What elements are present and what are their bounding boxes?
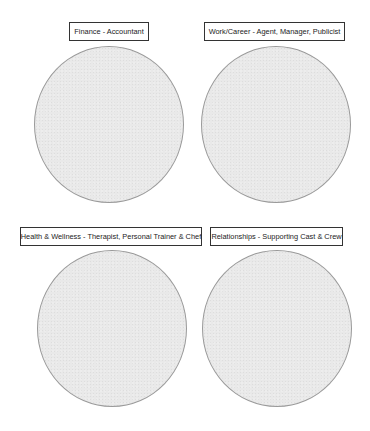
work-career-label: Work/Career - Agent, Manager, Publicist (204, 22, 345, 41)
relationships-label: Relationships - Supporting Cast & Crew (210, 227, 343, 246)
health-wellness-label: Health & Wellness - Therapist, Personal … (20, 227, 202, 246)
finance-label: Finance - Accountant (69, 22, 149, 41)
health-wellness-circle (37, 250, 187, 407)
relationships-circle (202, 250, 352, 407)
work-career-circle (201, 46, 351, 203)
finance-circle (34, 46, 184, 203)
